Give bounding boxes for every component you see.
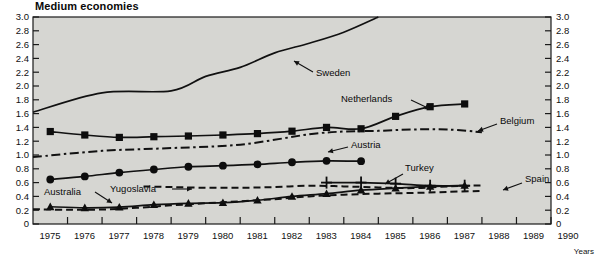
data-point-marker: [288, 128, 295, 135]
y-axis-left-labels: 00.20.40.60.81.01.21.41.61.82.02.22.42.6…: [16, 11, 29, 229]
y-tick-label: 1.4: [16, 122, 29, 133]
y-tick-label: 0: [556, 218, 561, 229]
y-tick-label: 1.2: [556, 136, 569, 147]
data-point-marker: [185, 163, 193, 171]
data-point-marker: [392, 113, 399, 120]
data-point-marker: [288, 158, 296, 166]
x-tick-label: 1990: [557, 230, 578, 241]
y-tick-label: 0.8: [16, 163, 29, 174]
data-point-marker: [150, 133, 157, 140]
series-label-belgium: Belgium: [500, 115, 534, 126]
series-label-australia: Australia: [44, 186, 82, 197]
chart-canvas: 00.20.40.60.81.01.21.41.61.82.02.22.42.6…: [0, 0, 598, 259]
y-tick-label: 2.0: [16, 80, 29, 91]
y-tick-label: 3.0: [16, 11, 29, 22]
x-axis-labels: 1975197619771978197919801981198219831984…: [39, 230, 578, 241]
x-tick-label: 1982: [281, 230, 302, 241]
x-tick-label: 1975: [39, 230, 60, 241]
data-point-marker: [219, 131, 226, 138]
y-tick-label: 0.8: [556, 163, 569, 174]
data-point-marker: [323, 124, 330, 131]
x-tick-label: 1985: [385, 230, 406, 241]
x-tick-label: 1987: [454, 230, 475, 241]
y-tick-label: 2.8: [556, 25, 569, 36]
y-tick-label: 2.8: [16, 25, 29, 36]
x-axis-title: Years: [574, 247, 594, 256]
data-point-marker: [254, 130, 261, 137]
x-tick-label: 1978: [143, 230, 164, 241]
data-point-marker: [46, 176, 54, 184]
series-label-netherlands: Netherlands: [341, 93, 392, 104]
series-label-yugoslavia: Yugoslavia: [110, 183, 157, 194]
y-tick-label: 0.6: [16, 177, 29, 188]
x-tick-label: 1980: [212, 230, 233, 241]
x-tick-label: 1977: [108, 230, 129, 241]
data-point-marker: [357, 157, 365, 165]
y-tick-label: 0.6: [556, 177, 569, 188]
data-point-marker: [185, 132, 192, 139]
y-tick-label: 0.4: [16, 191, 29, 202]
data-point-marker: [47, 128, 54, 135]
x-tick-label: 1988: [488, 230, 509, 241]
y-tick-label: 1.8: [16, 94, 29, 105]
y-tick-label: 2.4: [16, 53, 29, 64]
y-tick-label: 0.2: [16, 205, 29, 216]
y-tick-label: 2.6: [16, 39, 29, 50]
y-tick-label: 2.2: [16, 67, 29, 78]
y-tick-label: 0: [24, 218, 29, 229]
y-axis-right-labels: 00.20.40.60.81.01.21.41.61.82.02.22.42.6…: [556, 11, 569, 229]
series-label-austria: Austria: [351, 139, 381, 150]
data-point-marker: [219, 162, 227, 170]
x-tick-label: 1989: [523, 230, 544, 241]
x-tick-label: 1976: [74, 230, 95, 241]
y-tick-label: 1.0: [16, 149, 29, 160]
data-point-marker: [81, 131, 88, 138]
chart-figure: Medium economies 00.20.40.60.81.01.21.41…: [0, 0, 598, 259]
y-tick-label: 1.6: [556, 108, 569, 119]
data-point-marker: [461, 100, 468, 107]
y-tick-label: 1.6: [16, 108, 29, 119]
y-tick-label: 1.2: [16, 136, 29, 147]
x-tick-label: 1986: [419, 230, 440, 241]
data-point-marker: [254, 160, 262, 168]
x-tick-label: 1979: [178, 230, 199, 241]
y-tick-label: 2.6: [556, 39, 569, 50]
y-tick-label: 1.0: [556, 149, 569, 160]
x-tick-label: 1984: [350, 230, 371, 241]
y-tick-label: 2.4: [556, 53, 569, 64]
series-label-spain: Spain: [525, 173, 549, 184]
y-tick-label: 1.4: [556, 122, 569, 133]
y-tick-label: 2.0: [556, 80, 569, 91]
data-point-marker: [150, 166, 158, 174]
y-tick-label: 2.2: [556, 67, 569, 78]
y-tick-label: 1.8: [556, 94, 569, 105]
y-tick-label: 0.2: [556, 205, 569, 216]
data-point-marker: [323, 157, 331, 165]
y-tick-label: 3.0: [556, 11, 569, 22]
x-tick-label: 1983: [316, 230, 337, 241]
data-point-marker: [81, 172, 89, 180]
x-tick-label: 1981: [247, 230, 268, 241]
series-label-turkey: Turkey: [405, 162, 434, 173]
series-label-sweden: Sweden: [316, 67, 350, 78]
y-tick-label: 0.4: [556, 191, 569, 202]
data-point-marker: [116, 134, 123, 141]
data-point-marker: [115, 169, 123, 177]
